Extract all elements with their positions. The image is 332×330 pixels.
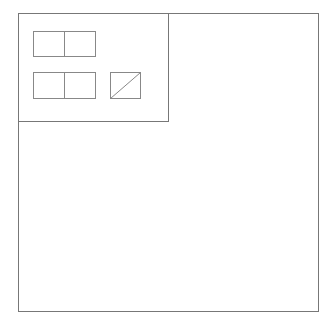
top-row-cell-left xyxy=(33,31,65,57)
top-left-panel xyxy=(18,13,169,122)
top-row-cell-right xyxy=(64,31,96,57)
diagonal-line xyxy=(111,73,141,99)
diagonal-placeholder-icon xyxy=(110,72,141,99)
bottom-row-cell-left xyxy=(33,72,65,99)
bottom-row-cell-right xyxy=(64,72,96,99)
